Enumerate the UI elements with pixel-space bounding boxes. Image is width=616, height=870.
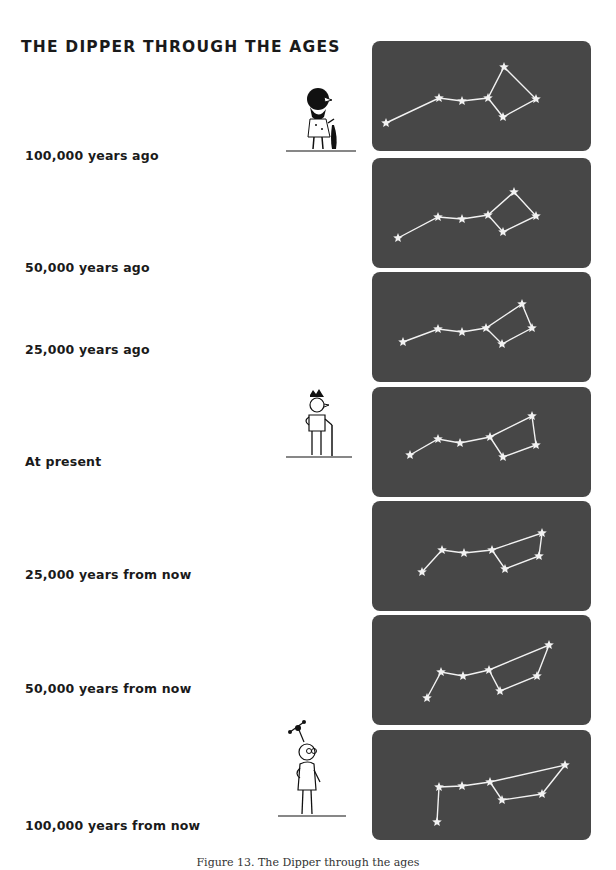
- dipper-panel: [372, 387, 591, 497]
- star-icon: [498, 452, 508, 461]
- era-label: 100,000 years from now: [25, 818, 200, 833]
- era-label: 50,000 years ago: [25, 260, 150, 275]
- constellation-lines: [386, 67, 536, 123]
- star-icon: [497, 795, 507, 804]
- star-icon: [457, 96, 467, 105]
- star-icon: [457, 214, 467, 223]
- constellation-lines: [403, 304, 532, 344]
- star-icon: [500, 564, 510, 573]
- figure-caption: Figure 13. The Dipper through the ages: [0, 856, 616, 869]
- star-icon: [534, 551, 544, 560]
- dipper-panel: [372, 41, 591, 151]
- era-label: At present: [25, 454, 101, 469]
- era-label: 100,000 years ago: [25, 148, 159, 163]
- dipper-panel: [372, 272, 591, 382]
- page-title: THE DIPPER THROUGH THE AGES: [21, 38, 341, 56]
- constellation-diagram: [372, 501, 591, 611]
- constellation-lines: [437, 765, 565, 822]
- dipper-panel: [372, 615, 591, 725]
- star-icon: [484, 665, 494, 674]
- star-icon: [455, 438, 465, 447]
- star-icon: [405, 450, 415, 459]
- star-icon: [457, 327, 467, 336]
- dipper-panel: [372, 501, 591, 611]
- star-icon: [433, 212, 443, 221]
- constellation-diagram: [372, 41, 591, 151]
- star-icon: [487, 545, 497, 554]
- modern-man-illustration: [278, 381, 358, 465]
- era-label: 50,000 years from now: [25, 681, 191, 696]
- star-icon: [422, 693, 432, 702]
- star-icon: [381, 118, 391, 127]
- star-icon: [398, 337, 408, 346]
- star-icon: [560, 760, 570, 769]
- constellation-diagram: [372, 387, 591, 497]
- star-icon: [437, 545, 447, 554]
- star-icon: [434, 93, 444, 102]
- star-icon: [485, 432, 495, 441]
- star-icon: [459, 548, 469, 557]
- constellation-diagram: [372, 158, 591, 268]
- star-icon: [527, 323, 537, 332]
- star-icon: [432, 817, 442, 826]
- constellation-lines: [398, 192, 536, 238]
- dipper-panel: [372, 158, 591, 268]
- constellation-diagram: [372, 615, 591, 725]
- constellation-diagram: [372, 730, 591, 840]
- star-icon: [393, 233, 403, 242]
- caveman-illustration: [280, 75, 360, 159]
- star-icon: [436, 667, 446, 676]
- constellation-lines: [410, 416, 536, 457]
- era-label: 25,000 years ago: [25, 342, 150, 357]
- constellation-diagram: [372, 272, 591, 382]
- star-icon: [495, 686, 505, 695]
- star-icon: [531, 440, 541, 449]
- star-icon: [458, 671, 468, 680]
- era-label: 25,000 years from now: [25, 567, 191, 582]
- star-icon: [544, 640, 554, 649]
- star-icon: [485, 777, 495, 786]
- future-man-illustration: [270, 720, 350, 824]
- star-icon: [433, 324, 443, 333]
- dipper-panel: [372, 730, 591, 840]
- star-icon: [483, 93, 493, 102]
- star-icon: [532, 671, 542, 680]
- star-icon: [457, 781, 467, 790]
